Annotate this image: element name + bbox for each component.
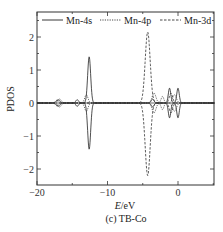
figure-caption: (c) TB-Co xyxy=(105,213,146,225)
legend-label: Mn-4s xyxy=(66,15,92,26)
x-axis-title: E/eV xyxy=(114,200,136,211)
series-layer xyxy=(37,32,215,176)
y-tick-label: 0 xyxy=(29,98,34,109)
x-axis-variable: E xyxy=(114,200,121,211)
axis-ticks: −20−100210−1−2 xyxy=(23,12,214,198)
y-tick-label: −2 xyxy=(23,164,34,175)
x-tick-label: −10 xyxy=(100,187,116,198)
legend: Mn-4sMn-4pMn-3d xyxy=(42,15,211,26)
series-curve-spin-down xyxy=(37,103,215,149)
legend-item-mn-4p: Mn-4p xyxy=(100,15,151,26)
x-axis-unit: /eV xyxy=(121,200,136,211)
y-axis-title: PDOS xyxy=(5,86,16,112)
legend-item-mn-3d: Mn-3d xyxy=(160,15,211,26)
legend-item-mn-4s: Mn-4s xyxy=(42,15,92,26)
series-curve-spin-up xyxy=(37,57,215,103)
plot-frame xyxy=(37,12,214,185)
series-curve-spin-up xyxy=(37,93,215,103)
series-curve-spin-down xyxy=(37,103,215,113)
y-tick-label: 1 xyxy=(29,65,34,76)
series-curve-spin-down xyxy=(37,103,215,176)
y-tick-label: −1 xyxy=(23,131,34,142)
series-curve-spin-up xyxy=(37,32,215,103)
legend-label: Mn-3d xyxy=(184,15,211,26)
series-mn-3d xyxy=(37,32,215,176)
pdos-chart: −20−100210−1−2 Mn-4sMn-4pMn-3d PDOS E/eV… xyxy=(0,0,223,232)
x-tick-label: −20 xyxy=(29,187,45,198)
legend-label: Mn-4p xyxy=(124,15,151,26)
x-tick-label: 0 xyxy=(176,187,181,198)
y-tick-label: 2 xyxy=(29,32,34,43)
